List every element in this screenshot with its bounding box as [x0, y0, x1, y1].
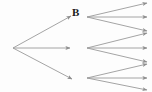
tree-edge	[87, 33, 147, 48]
edge-group	[13, 3, 147, 90]
tree-edge	[87, 64, 147, 78]
game-tree-diagram: B	[0, 0, 152, 92]
tree-edge	[13, 48, 72, 79]
tree-edge	[87, 3, 147, 17]
node-label-b: B	[72, 7, 79, 18]
tree-edge	[87, 17, 147, 31]
tree-edge	[13, 16, 71, 48]
tree-edge	[87, 48, 147, 62]
tree-edge	[87, 78, 147, 90]
